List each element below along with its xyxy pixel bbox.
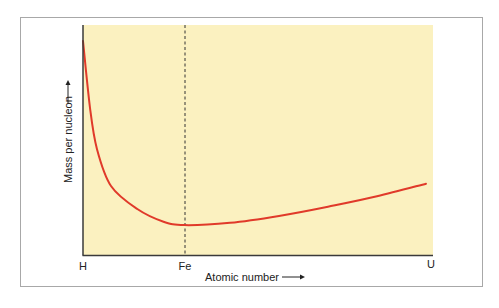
x-tick-h: H: [79, 260, 87, 272]
plot-area: [83, 25, 433, 255]
x-axis-label: Atomic number: [205, 271, 279, 283]
chart: H Fe U Atomic number Mass per nucleon: [0, 0, 499, 308]
y-axis-label: Mass per nucleon: [62, 96, 74, 183]
x-tick-fe: Fe: [179, 260, 192, 272]
x-tick-u: U: [427, 258, 435, 270]
x-axis-arrow-icon: [282, 275, 305, 280]
